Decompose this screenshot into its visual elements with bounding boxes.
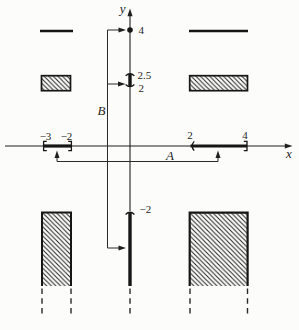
- y-tick-label-minus2: −2: [140, 203, 152, 215]
- point-b-4-dot: [127, 27, 133, 33]
- callout-b-arrowhead-bottom-icon: [119, 246, 127, 251]
- y-axis-label: y: [118, 1, 126, 16]
- callout-b-arrowhead-top-icon: [119, 28, 127, 33]
- set-b-label: B: [98, 103, 106, 118]
- hatched-rect-bottom-left: [42, 213, 71, 318]
- y-axis: [127, 9, 132, 212]
- segment-a-left: [43, 141, 72, 150]
- y-axis-arrowhead-icon: [127, 9, 132, 17]
- segment-b-below-minus2: [126, 212, 135, 317]
- hatched-rect-bottom-right: [190, 213, 248, 318]
- segment-b-2-to-2.5: [126, 74, 135, 87]
- segment-a-right: [191, 141, 248, 150]
- diagram-canvas: x y −3 −2 2 4 4 2.5 2 −2 B: [0, 0, 299, 330]
- y-tick-label-2.5: 2.5: [138, 69, 152, 81]
- callout-b: B: [98, 28, 126, 251]
- callout-a-arrowhead-right-icon: [216, 151, 221, 159]
- y-tick-label-2: 2: [139, 82, 145, 94]
- hatched-rect-top-right: [190, 76, 248, 91]
- callout-a-arrowhead-left-icon: [55, 151, 60, 159]
- x-tick-label-2: 2: [187, 129, 193, 141]
- callout-a: A: [55, 148, 221, 163]
- product-set-figure: x y −3 −2 2 4 4 2.5 2 −2 B: [0, 0, 299, 330]
- set-a-label: A: [165, 148, 174, 163]
- x-axis-label: x: [285, 146, 292, 161]
- x-tick-label-minus2: −2: [61, 130, 73, 142]
- x-tick-label-minus3: −3: [40, 130, 52, 142]
- hatched-rect-top-left: [42, 76, 71, 91]
- x-tick-label-4: 4: [242, 129, 248, 141]
- y-tick-label-4: 4: [139, 24, 145, 36]
- callout-b-arrowhead-middle-icon: [118, 82, 126, 87]
